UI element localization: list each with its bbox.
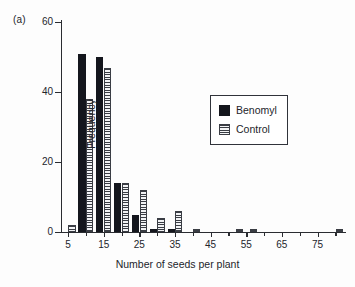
x-minor-tick-10 [86,232,87,236]
bar-benomyl-x15 [96,57,103,232]
x-tick-label-5: 5 [53,239,83,250]
y-tick-60 [55,22,61,23]
y-tick-40 [55,92,61,93]
x-tick-55 [246,232,247,237]
x-minor-tick-70 [300,232,301,236]
y-tick-label-60: 60 [13,16,53,27]
x-tick-label-35: 35 [160,239,190,250]
legend-label-benomyl: Benomyl [236,104,277,116]
x-axis-label: Number of seeds per plant [0,258,355,270]
bar-benomyl-x35 [168,229,175,233]
legend-swatch-control-icon [219,124,230,135]
x-minor-tick-30 [157,232,158,236]
x-tick-65 [282,232,283,237]
bar-control-x52 [236,229,243,233]
x-tick-label-65: 65 [267,239,297,250]
x-tick-label-15: 15 [89,239,119,250]
bar-control-x80 [336,229,343,233]
bar-control-x56 [250,229,257,233]
x-minor-tick-40 [193,232,194,236]
bar-benomyl-x30 [150,229,157,233]
bar-control-x35 [175,211,182,232]
x-minor-tick-50 [228,232,229,236]
bar-control-x20 [122,183,129,232]
plot-area: Frequency [62,22,345,232]
legend-item-benomyl[interactable]: Benomyl [219,104,277,116]
x-tick-45 [211,232,212,237]
bar-control-x30 [157,218,164,232]
x-tick-label-55: 55 [231,239,261,250]
bar-control-x25 [140,190,147,232]
chart-legend: Benomyl Control [210,95,288,145]
y-tick-label-20: 20 [13,156,53,167]
x-tick-5 [68,232,69,237]
x-tick-15 [104,232,105,237]
x-minor-tick-60 [264,232,265,236]
x-tick-label-45: 45 [196,239,226,250]
y-tick-label-40: 40 [13,86,53,97]
y-axis-label: Frequency [85,49,97,199]
x-tick-35 [175,232,176,237]
x-minor-tick-20 [122,232,123,236]
bar-control-x5 [68,225,75,232]
x-tick-label-25: 25 [124,239,154,250]
bar-benomyl-x20 [114,183,121,232]
bar-control-x40 [193,229,200,233]
x-tick-label-75: 75 [303,239,333,250]
x-tick-25 [139,232,140,237]
y-tick-20 [55,162,61,163]
x-tick-75 [318,232,319,237]
legend-item-control[interactable]: Control [219,123,270,135]
bar-benomyl-x25 [132,215,139,233]
legend-label-control: Control [236,123,270,135]
bar-control-x15 [104,68,111,233]
y-tick-0 [55,232,61,233]
legend-swatch-benomyl-icon [219,105,230,116]
y-tick-label-0: 0 [13,226,53,237]
x-minor-tick-80 [335,232,336,236]
figure-panel-a: (a) 0204060 515253545556575 Frequency Nu… [0,0,355,287]
